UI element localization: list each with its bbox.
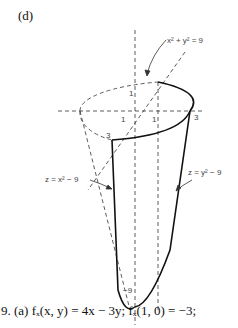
three-right-label: 3	[194, 113, 199, 122]
neg-nine-label: −9	[123, 286, 133, 295]
cone-surface-diagram: x² + y² = 9 z = x² − 9 z = y² − 9 1 1 1 …	[0, 0, 238, 328]
y-tick-label: 1	[152, 115, 157, 124]
three-left-label: 3	[106, 131, 111, 140]
left-surface-label: z = x² − 9	[45, 175, 79, 184]
right-surface-label: z = y² − 9	[188, 168, 222, 177]
circle-equation-label: x² + y² = 9	[167, 36, 204, 45]
answer-line: 9. (a) fₓ(x, y) = 4x − 3y; fₓ(1, 0) = −3…	[1, 303, 196, 319]
z-tick-label: 1	[129, 89, 134, 98]
x-tick-label: 1	[121, 115, 126, 124]
